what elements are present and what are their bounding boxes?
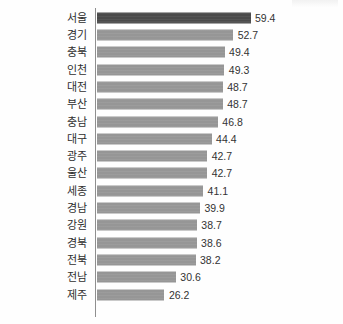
category-label: 대구 bbox=[67, 133, 87, 144]
bar bbox=[97, 151, 208, 162]
bar-track bbox=[97, 289, 165, 300]
bar-track bbox=[97, 12, 251, 23]
bar bbox=[97, 64, 225, 75]
value-label: 26.2 bbox=[169, 289, 189, 300]
bar-row: 전북38.2 bbox=[0, 251, 343, 268]
category-label: 경남 bbox=[67, 203, 87, 214]
bar-track bbox=[97, 272, 176, 283]
bar bbox=[97, 289, 165, 300]
bar bbox=[97, 133, 212, 144]
horizontal-bar-chart: 서울59.4경기52.7충북49.4인천49.3대전48.7부산48.7충남46… bbox=[0, 0, 343, 324]
bar bbox=[97, 116, 218, 127]
bar-row: 광주42.7 bbox=[0, 148, 343, 165]
value-label: 49.3 bbox=[229, 64, 249, 75]
bar-row: 경북38.6 bbox=[0, 234, 343, 251]
bar-track bbox=[97, 237, 197, 248]
bar-track bbox=[97, 81, 223, 92]
plot-area: 서울59.4경기52.7충북49.4인천49.3대전48.7부산48.7충남46… bbox=[0, 0, 343, 324]
value-label: 59.4 bbox=[255, 12, 275, 23]
bar bbox=[97, 81, 223, 92]
bar-row: 대전48.7 bbox=[0, 78, 343, 95]
category-label: 대전 bbox=[67, 81, 87, 92]
bar-row: 부산48.7 bbox=[0, 96, 343, 113]
category-label: 부산 bbox=[67, 99, 87, 110]
value-label: 48.7 bbox=[227, 99, 247, 110]
category-label: 광주 bbox=[67, 151, 87, 162]
category-label: 전남 bbox=[67, 272, 87, 283]
bar-track bbox=[97, 168, 208, 179]
category-label: 충남 bbox=[67, 116, 87, 127]
value-label: 49.4 bbox=[229, 47, 249, 58]
bar bbox=[97, 29, 234, 40]
bar-track bbox=[97, 151, 208, 162]
value-label: 39.9 bbox=[204, 203, 224, 214]
bar-track bbox=[97, 116, 218, 127]
bar-track bbox=[97, 64, 225, 75]
bar-track bbox=[97, 133, 212, 144]
bar-row: 울산42.7 bbox=[0, 165, 343, 182]
bar-track bbox=[97, 29, 234, 40]
bar-track bbox=[97, 99, 223, 110]
value-label: 30.6 bbox=[180, 272, 200, 283]
bar bbox=[97, 168, 208, 179]
bar bbox=[97, 272, 176, 283]
bar bbox=[97, 47, 225, 58]
bar-row: 서울59.4 bbox=[0, 9, 343, 26]
bar bbox=[97, 220, 197, 231]
category-label: 전북 bbox=[67, 255, 87, 266]
value-label: 52.7 bbox=[238, 30, 258, 41]
value-label: 42.7 bbox=[212, 151, 232, 162]
category-label: 충북 bbox=[67, 47, 87, 58]
bar-track bbox=[97, 185, 204, 196]
category-label: 서울 bbox=[67, 12, 87, 23]
bar-row: 강원38.7 bbox=[0, 217, 343, 234]
category-label: 울산 bbox=[67, 168, 87, 179]
bar-row: 인천49.3 bbox=[0, 61, 343, 78]
category-label: 인천 bbox=[67, 64, 87, 75]
bar-track bbox=[97, 255, 196, 266]
bar-track bbox=[97, 220, 197, 231]
bar-row: 대구44.4 bbox=[0, 130, 343, 147]
value-label: 46.8 bbox=[222, 116, 242, 127]
value-label: 42.7 bbox=[212, 168, 232, 179]
bar-rows: 서울59.4경기52.7충북49.4인천49.3대전48.7부산48.7충남46… bbox=[0, 9, 343, 303]
bar-row: 경기52.7 bbox=[0, 26, 343, 43]
category-label: 제주 bbox=[67, 289, 87, 300]
bar-row: 전남30.6 bbox=[0, 269, 343, 286]
bar bbox=[97, 203, 200, 214]
value-label: 38.2 bbox=[200, 255, 220, 266]
bar-row: 경남39.9 bbox=[0, 199, 343, 216]
value-label: 41.1 bbox=[208, 186, 228, 197]
category-label: 경기 bbox=[67, 29, 87, 40]
category-label: 강원 bbox=[67, 220, 87, 231]
value-label: 48.7 bbox=[227, 82, 247, 93]
value-label: 38.6 bbox=[201, 237, 221, 248]
bar-row: 세종41.1 bbox=[0, 182, 343, 199]
value-label: 38.7 bbox=[201, 220, 221, 231]
bar-track bbox=[97, 47, 225, 58]
bar bbox=[97, 237, 197, 248]
bar bbox=[97, 255, 196, 266]
bar-row: 충남46.8 bbox=[0, 113, 343, 130]
bar bbox=[97, 99, 223, 110]
bar bbox=[97, 185, 204, 196]
bar-highlighted bbox=[97, 12, 251, 23]
value-label: 44.4 bbox=[216, 134, 236, 145]
category-label: 세종 bbox=[67, 185, 87, 196]
category-label: 경북 bbox=[67, 237, 87, 248]
bar-track bbox=[97, 203, 200, 214]
bar-row: 제주26.2 bbox=[0, 286, 343, 303]
bar-row: 충북49.4 bbox=[0, 44, 343, 61]
